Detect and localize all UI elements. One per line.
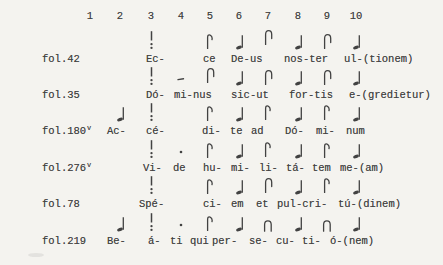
column-number: 10 [350, 10, 363, 22]
syllable: Vi- [143, 162, 162, 174]
virga-neume-icon [148, 212, 155, 232]
clivis-neume-icon [263, 29, 273, 45]
column-number: 7 [265, 10, 271, 22]
virga-neume-icon [148, 66, 155, 86]
note-neume-icon [234, 34, 245, 50]
syllable: mi- [316, 125, 335, 137]
syllable: sic-ut [231, 89, 269, 101]
dash-neume-icon [177, 77, 185, 81]
note-neume-icon [234, 179, 245, 195]
syllable: cé- [146, 125, 165, 137]
arch-neume-icon [321, 219, 333, 232]
folio-label: fol.35 [42, 89, 80, 101]
syllable: qui [190, 235, 209, 247]
note-neume-icon [293, 216, 304, 232]
syllable: Dó- [285, 125, 304, 137]
syllable: De-us [231, 53, 263, 65]
syllable: num [346, 125, 365, 137]
folio-label: fol.78 [42, 198, 80, 210]
virga-neume-icon [148, 30, 155, 50]
note-neume-icon [293, 34, 304, 50]
column-number: 8 [295, 10, 301, 22]
column-number: 1 [87, 10, 93, 22]
note-neume-icon [234, 143, 245, 159]
folio-label: fol.276v [42, 162, 91, 175]
folio-number: fol.78 [42, 198, 80, 210]
syllable: ti- [302, 235, 321, 247]
syllable: ti [170, 235, 183, 247]
pes-neume-icon [205, 142, 215, 158]
syllable: me-(am) [340, 162, 384, 174]
syllable: ci- [203, 198, 222, 210]
syllable: mi-nus [174, 89, 212, 101]
syllable: mi- [231, 162, 250, 174]
scanned-music-example-page: 12345678910fol.42Ec-ceDe-usnos-terul-(ti… [0, 0, 443, 265]
folio-number: fol.42 [42, 53, 80, 65]
folio-label: fol.42 [42, 53, 80, 65]
clivis-neume-icon [205, 67, 215, 83]
syllable: Dó- [146, 89, 165, 101]
folio-number: fol.219 [42, 235, 86, 247]
note-neume-icon [351, 106, 362, 122]
dot-neume-icon [179, 150, 183, 154]
folio-label: fol.180v [42, 125, 91, 138]
syllable: di- [202, 125, 221, 137]
note-neume-icon [293, 143, 304, 159]
syllable: em [231, 198, 244, 210]
pes-neume-icon [322, 142, 332, 158]
note-neume-icon [293, 106, 304, 122]
note-neume-icon [351, 179, 362, 195]
note-neume-icon [115, 106, 126, 122]
note-neume-icon [351, 216, 362, 232]
syllable: et [256, 198, 269, 210]
syllable: se- [249, 235, 268, 247]
syllable: de [173, 162, 186, 174]
note-neume-icon [115, 216, 126, 232]
pes-neume-icon [205, 215, 215, 231]
syllable: for-tis [289, 89, 333, 101]
virga-neume-icon [148, 175, 155, 195]
syllable: ó-(nem) [330, 235, 374, 247]
syllable: ul-(tionem) [344, 53, 413, 65]
syllable: te [230, 125, 243, 137]
pes-neume-icon [263, 141, 273, 157]
note-neume-icon [293, 179, 304, 195]
pes-neume-icon [263, 104, 273, 120]
clivis-neume-icon [263, 177, 273, 193]
syllable: pul-cri- [277, 198, 327, 210]
folio-number: fol.180 [42, 125, 86, 137]
syllable: Be- [107, 235, 126, 247]
syllable: e-(gredietur) [349, 89, 431, 101]
folio-number: fol.276 [42, 162, 86, 174]
folio-label: fol.219 [42, 235, 86, 247]
arch-neume-icon [262, 219, 274, 232]
column-number: 3 [148, 10, 154, 22]
virga-neume-icon [148, 139, 155, 159]
column-number: 4 [178, 10, 184, 22]
syllable: ce [203, 53, 216, 65]
dot-neume-icon [179, 223, 183, 227]
note-neume-icon [351, 143, 362, 159]
note-neume-icon [293, 70, 304, 86]
column-number: 6 [236, 10, 242, 22]
syllable: per- [212, 235, 237, 247]
syllable: nos-ter [284, 53, 328, 65]
syllable: ad [251, 125, 264, 137]
column-number: 2 [117, 10, 123, 22]
virga-neume-icon [148, 102, 155, 122]
column-number: 9 [324, 10, 330, 22]
folio-verso-superscript: v [87, 124, 91, 132]
pes-neume-icon [205, 105, 215, 121]
syllable: tem [312, 162, 331, 174]
pes-neume-icon [322, 104, 332, 120]
note-neume-icon [351, 34, 362, 50]
syllable: cu- [276, 235, 295, 247]
syllable: Spé- [139, 198, 164, 210]
folio-verso-superscript: v [87, 161, 91, 169]
clivis-neume-icon [263, 69, 273, 85]
clivis-neume-icon [322, 33, 332, 49]
note-neume-icon [234, 70, 245, 86]
syllable: tá- [286, 162, 305, 174]
note-neume-icon [234, 216, 245, 232]
note-neume-icon [234, 106, 245, 122]
